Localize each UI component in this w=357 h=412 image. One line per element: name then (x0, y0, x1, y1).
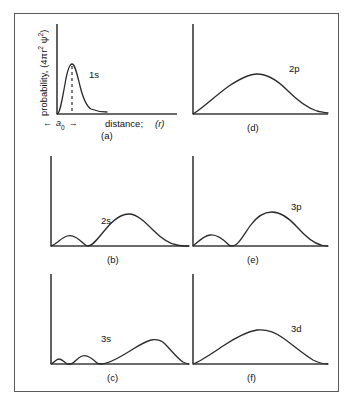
y-axis-label-prefix: probability, (4πr (39, 50, 49, 116)
orbital-label-3d: 3d (291, 324, 302, 334)
panel-caption-f: (f) (247, 373, 256, 383)
orbital-label-1s: 1s (89, 70, 99, 80)
panel-b-2s: 2s (b) (43, 154, 191, 264)
plot-2p (185, 22, 330, 122)
plot-3s (43, 272, 191, 372)
orbital-label-3s: 3s (101, 334, 111, 344)
panel-a-1s: 1s probability, (4πr2 ψ2) ←a0→ distance;… (29, 22, 179, 132)
curve-2p (193, 74, 328, 114)
figure-frame: 1s probability, (4πr2 ψ2) ←a0→ distance;… (14, 13, 339, 392)
a0-annotation: ←a0→ (43, 118, 78, 128)
panel-caption-c: (c) (107, 373, 118, 383)
y-axis-label-exp1: 2 (37, 46, 44, 50)
y-axis-label: probability, (4πr2 ψ2) (39, 0, 49, 116)
plot-2s (43, 154, 191, 254)
panel-e-3p: 3p (e) (185, 154, 330, 264)
panel-caption-e: (e) (247, 255, 259, 265)
panel-caption-b: (b) (107, 255, 119, 265)
plot-3d (185, 272, 330, 372)
curve-3p (193, 212, 328, 246)
curve-3s (51, 340, 189, 364)
x-axis-label: distance; (105, 118, 143, 129)
panel-f-3d: 3d (f) (185, 272, 330, 384)
x-axis-label-variable: (r) (155, 118, 165, 129)
a0-subscript: 0 (61, 124, 65, 131)
curve-3d (193, 330, 328, 364)
a0-left-arrow: ← (43, 118, 52, 128)
plot-1s (29, 22, 179, 132)
y-axis-label-exp2: 2 (37, 33, 44, 37)
y-axis-label-psi: ψ (39, 36, 49, 43)
orbital-label-2p: 2p (289, 64, 300, 74)
curve-1s (57, 64, 107, 114)
curve-2s (51, 214, 189, 246)
plot-3p (185, 154, 330, 254)
panel-caption-d: (d) (247, 123, 259, 133)
orbital-label-2s: 2s (101, 216, 111, 226)
orbital-label-3p: 3p (291, 202, 302, 212)
panel-caption-a: (a) (101, 131, 113, 141)
panel-c-3s: 3s (c) (43, 272, 191, 384)
a0-right-arrow: → (69, 118, 78, 128)
panel-d-2p: 2p (d) (185, 22, 330, 132)
